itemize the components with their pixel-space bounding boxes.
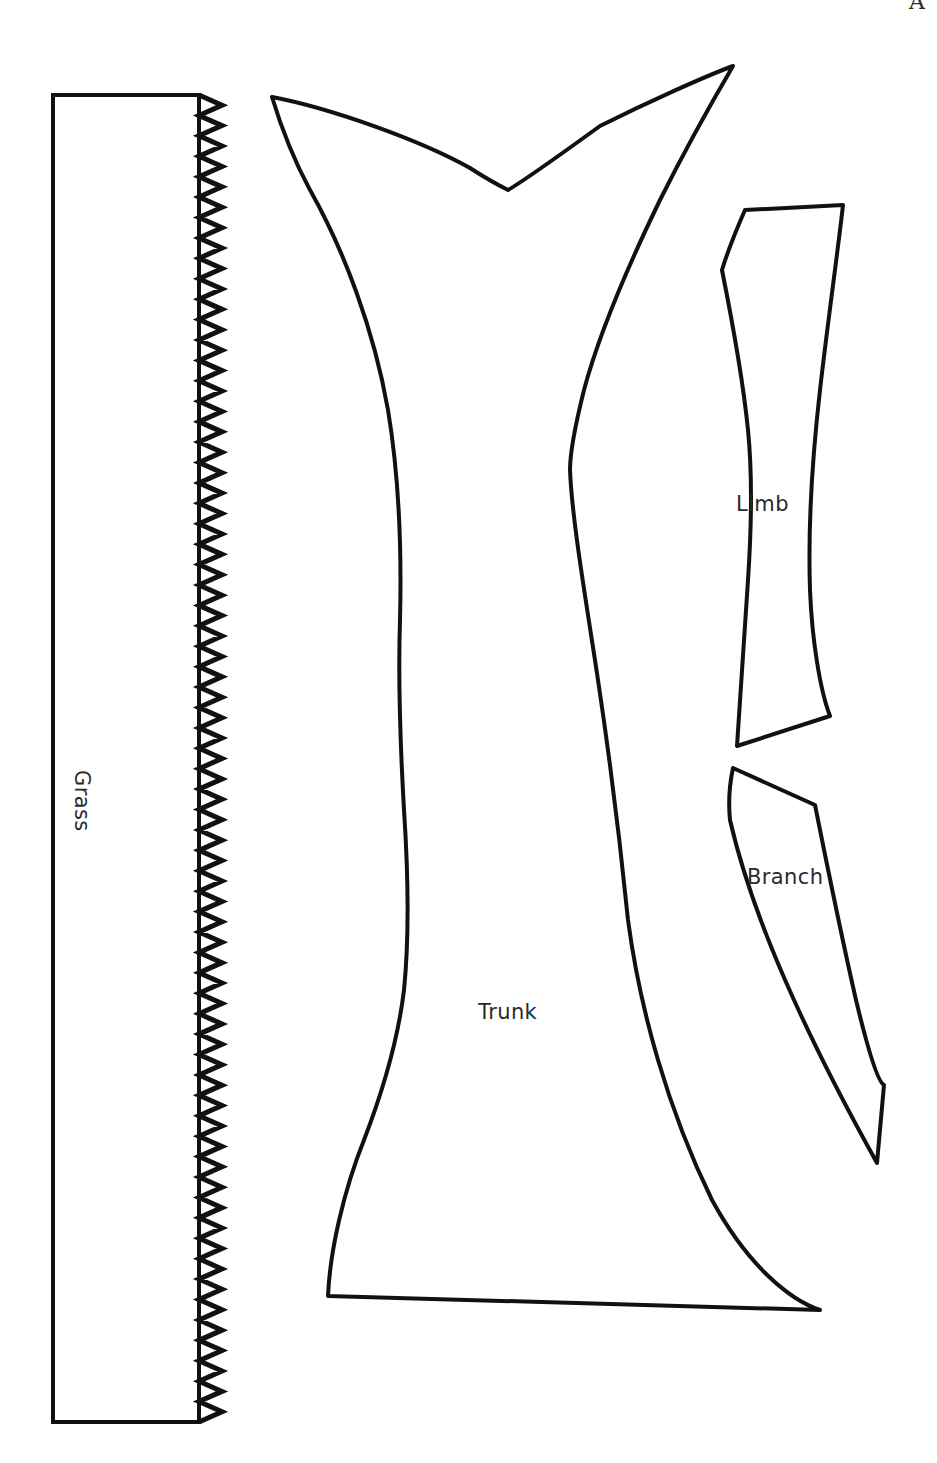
pattern-piece-grass[interactable]	[53, 95, 222, 1422]
trunk-outline	[272, 66, 820, 1310]
piece-label-trunk: Trunk	[478, 1000, 537, 1024]
piece-label-limb: Limb	[736, 492, 789, 516]
grass-zigzag-edge	[199, 95, 222, 1422]
pattern-piece-limb[interactable]	[722, 205, 843, 746]
pattern-sheet-page: A Trunk Limb Branch Grass	[0, 0, 937, 1463]
pattern-piece-branch[interactable]	[729, 768, 884, 1163]
piece-label-grass: Grass	[70, 770, 94, 832]
branch-outline	[729, 768, 884, 1163]
piece-label-branch: Branch	[747, 865, 823, 889]
limb-outline	[722, 205, 843, 746]
pattern-piece-trunk[interactable]	[272, 66, 820, 1310]
pattern-artboard	[0, 0, 937, 1463]
grass-rectangle-outline	[53, 95, 199, 1422]
